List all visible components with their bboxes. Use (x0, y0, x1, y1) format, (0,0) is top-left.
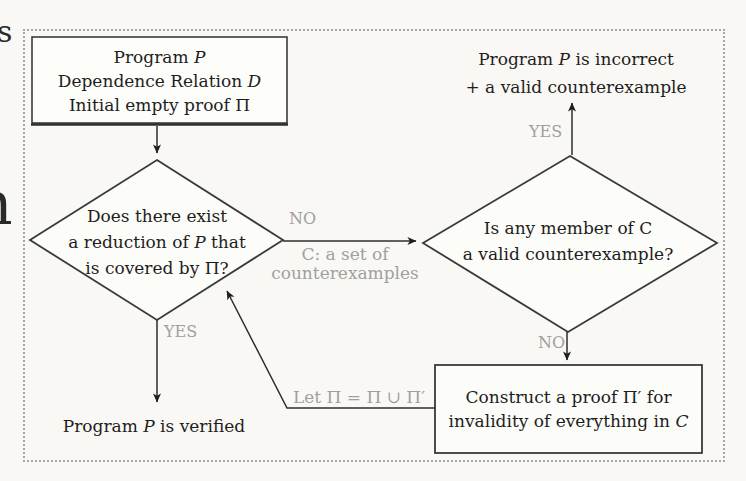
counterexample-line-1: Is any member of C (448, 215, 688, 241)
verified-line-1: Program P is verified (44, 414, 264, 438)
edge-label-yes-left: YES (164, 322, 197, 341)
start-box-label: Program P Dependence Relation D Initial … (32, 45, 287, 117)
start-box-line-2: Dependence Relation D (32, 69, 287, 93)
reduction-diamond-label: Does there exist a reduction of P that i… (37, 203, 277, 281)
reduction-line-1: Does there exist (37, 203, 277, 229)
verified-outcome-label: Program P is verified (44, 414, 264, 438)
c-set-note-line-1: C: a set of (260, 245, 430, 264)
edge-label-yes-right: YES (529, 122, 562, 141)
construct-line-1: Construct a proof Π′ for (435, 385, 702, 409)
reduction-line-3: is covered by Π? (37, 255, 277, 281)
c-set-note-line-2: counterexamples (260, 264, 430, 283)
page-text-fragment-s: s (0, 17, 12, 47)
incorrect-line-2: + a valid counterexample (456, 73, 696, 101)
edge-label-no-right: NO (538, 333, 565, 352)
start-box-line-3: Initial empty proof Π (32, 93, 287, 117)
start-box-line-1: Program P (32, 45, 287, 69)
edge-label-proof-union: Let Π = Π ∪ Π′ (288, 387, 430, 407)
construct-line-2: invalidity of everything in C (435, 409, 702, 433)
reduction-line-2: a reduction of P that (37, 229, 277, 255)
incorrect-outcome-label: Program P is incorrect + a valid counter… (456, 45, 696, 101)
page-text-fragment-n: n (0, 173, 13, 233)
counterexample-diamond-label: Is any member of C a valid counterexampl… (448, 215, 688, 267)
figure-scan-page: s n Program P Dependence Relation D Init… (0, 0, 746, 481)
counterexample-line-2: a valid counterexample? (448, 241, 688, 267)
incorrect-line-1: Program P is incorrect (456, 45, 696, 73)
edge-label-c-set-note: C: a set of counterexamples (260, 245, 430, 283)
construct-box-label: Construct a proof Π′ for invalidity of e… (435, 385, 702, 433)
edge-label-no-center: NO (289, 209, 316, 228)
